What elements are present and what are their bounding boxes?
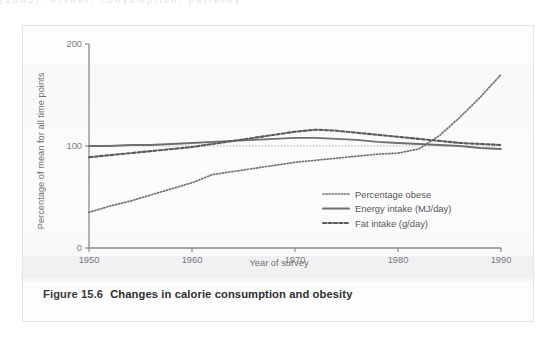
- series-line-1: [89, 138, 501, 149]
- figure-frame: 010020019501960197019801990Percentage ob…: [22, 25, 534, 322]
- legend-label-0: Percentage obese: [355, 189, 431, 200]
- legend-label-1: Energy intake (MJ/day): [355, 203, 451, 214]
- page-top-text-artifact: (2005), Fisher, consumption, patterns: [0, 0, 554, 14]
- y-axis-label: Percentage of mean for all time points: [36, 71, 46, 231]
- series-line-2: [89, 130, 501, 158]
- y-tick-label-0: 0: [77, 243, 82, 253]
- top-artifact-text: (2005), Fisher, consumption, patterns: [0, 0, 242, 5]
- figure-number: Figure 15.6: [43, 288, 103, 300]
- x-axis-label: Year of survey: [23, 258, 535, 268]
- series-line-0: [89, 75, 501, 213]
- chart-svg: 010020019501960197019801990Percentage ob…: [23, 26, 535, 276]
- figure-caption: Figure 15.6Changes in calorie consumptio…: [43, 288, 352, 300]
- y-tick-label-200: 200: [66, 39, 82, 49]
- figure-caption-text: Changes in calorie consumption and obesi…: [110, 288, 352, 300]
- plot-area: 010020019501960197019801990Percentage ob…: [23, 26, 535, 276]
- y-tick-label-100: 100: [66, 141, 82, 151]
- legend-label-2: Fat intake (g/day): [355, 218, 428, 229]
